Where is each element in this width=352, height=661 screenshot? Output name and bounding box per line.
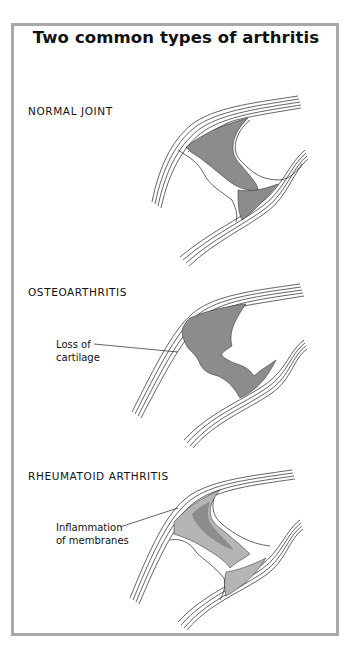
section-label-osteoarthritis: OSTEOARTHRITIS	[28, 286, 127, 298]
callout-inflammation-of-membranes: Inflammation of membranes	[56, 521, 129, 547]
callout-line-1: Loss of	[56, 338, 100, 351]
figure-title: Two common types of arthritis	[0, 28, 352, 47]
section-label-normal-joint: NORMAL JOINT	[28, 105, 113, 117]
normal-joint-illustration	[150, 92, 320, 267]
callout-line-2: of membranes	[56, 534, 129, 547]
callout-line-2: cartilage	[56, 351, 100, 364]
osteoarthritis-joint-illustration	[128, 280, 308, 450]
rheumatoid-arthritis-joint-illustration	[130, 462, 310, 632]
callout-line-1: Inflammation	[56, 521, 129, 534]
callout-loss-of-cartilage: Loss of cartilage	[56, 338, 100, 364]
